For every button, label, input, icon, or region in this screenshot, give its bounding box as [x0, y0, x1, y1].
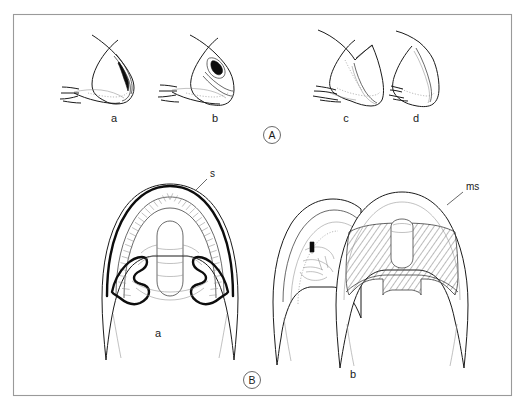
label-specimen-a: a: [111, 112, 118, 124]
label-specimen-d: d: [413, 112, 419, 124]
label-specimen-b-a: a: [155, 327, 162, 339]
figure-canvas: a b: [0, 0, 527, 411]
panel-letter-a: A: [264, 127, 281, 144]
label-specimen-b-b: b: [350, 368, 356, 380]
panel-letter-b-text: B: [248, 374, 255, 386]
specimen-a-drawing: [60, 35, 134, 104]
leader-label-s: s: [210, 168, 215, 179]
panel-b-group: s a: [102, 168, 479, 389]
specimen-d-drawing: [389, 31, 439, 107]
leader-label-ms: ms: [466, 181, 479, 192]
label-specimen-b: b: [212, 112, 218, 124]
specimen-b-b-right-shape: [336, 192, 468, 368]
panel-letter-a-text: A: [268, 129, 275, 141]
specimen-c-drawing: [313, 30, 384, 106]
specimen-b-drawing: [158, 35, 234, 105]
specimen-b-a-drawing: [102, 179, 238, 360]
panel-a-group: a b: [60, 30, 439, 144]
figure-container: a b: [0, 0, 527, 411]
label-specimen-c: c: [343, 112, 349, 124]
specimen-b-b-drawing: [273, 192, 468, 368]
panel-letter-b: B: [244, 372, 261, 389]
